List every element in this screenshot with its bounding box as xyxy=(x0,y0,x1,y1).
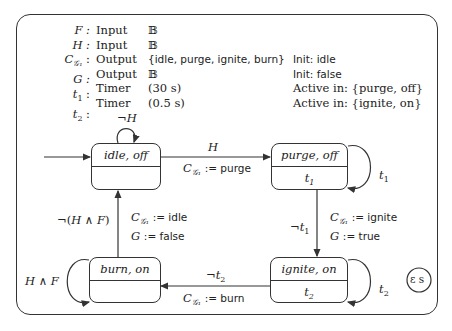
state-purge[interactable]: purge, off t1 xyxy=(271,143,348,190)
state-ignite-timer: t2 xyxy=(271,281,347,308)
state-ignite[interactable]: ignite, on t2 xyxy=(270,257,348,303)
label-idle-self: ¬H xyxy=(117,111,137,125)
state-burn-label: burn, on xyxy=(90,258,160,281)
epsilon-badge: ε s xyxy=(410,273,424,285)
label-purge-self: t1 xyxy=(379,168,389,184)
label-burn-idle-action: C𝒢₁ := idle G := false xyxy=(131,210,187,243)
label-purge-ignite-guard: ¬t1 xyxy=(290,220,309,236)
label-burn-idle-guard: ¬(H ∧ F) xyxy=(57,213,109,227)
label-idle-purge-action: C𝒢₁ := purge xyxy=(183,161,251,178)
label-burn-self: H ∧ F xyxy=(25,274,59,288)
state-purge-label: purge, off xyxy=(272,144,347,167)
label-ignite-burn-action: C𝒢₁ := burn xyxy=(183,291,244,308)
state-idle[interactable]: idle, off xyxy=(91,143,161,190)
state-purge-timer: t1 xyxy=(272,167,347,194)
state-burn[interactable]: burn, on xyxy=(89,257,161,303)
label-purge-ignite-action: C𝒢₁ := ignite G := true xyxy=(330,210,397,243)
label-ignite-burn-guard: ¬t2 xyxy=(206,268,225,284)
label-idle-purge-guard: H xyxy=(208,140,218,154)
state-idle-label: idle, off xyxy=(92,144,160,167)
state-ignite-label: ignite, on xyxy=(271,258,347,281)
label-ignite-self: t2 xyxy=(379,282,389,298)
